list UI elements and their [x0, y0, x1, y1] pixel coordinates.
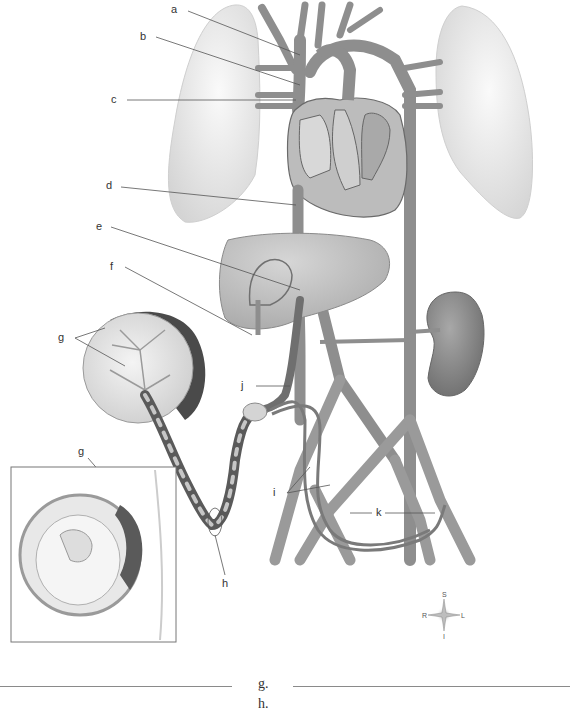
- compass-right: R: [422, 612, 427, 619]
- fetal-circulation-diagram: a b c d e f g g h i j k S R L I g. h.: [0, 0, 570, 715]
- answer-label-g: g.: [258, 676, 269, 692]
- label-d: d: [106, 180, 112, 191]
- label-g-inset: g: [78, 446, 84, 457]
- label-e: e: [96, 221, 102, 232]
- inferior-vena-cava: [298, 190, 395, 460]
- compass-left: L: [461, 612, 465, 619]
- answer-line-left[interactable]: [0, 686, 232, 687]
- anatomy-illustration: [0, 0, 570, 715]
- label-c: c: [111, 94, 117, 105]
- left-lung: [436, 6, 533, 218]
- right-lung: [168, 5, 259, 222]
- placenta: [83, 312, 205, 423]
- compass-superior: S: [442, 591, 447, 598]
- label-f: f: [110, 261, 113, 272]
- label-b: b: [140, 31, 146, 42]
- label-g-placenta: g: [58, 332, 64, 343]
- orientation-compass: [428, 599, 460, 631]
- label-j: j: [241, 380, 243, 391]
- answer-label-h: h.: [258, 696, 269, 712]
- label-a: a: [171, 4, 177, 15]
- label-h: h: [222, 578, 228, 589]
- compass-inferior: I: [443, 633, 445, 640]
- label-k: k: [376, 507, 382, 518]
- answer-line-right[interactable]: [293, 686, 570, 687]
- label-i: i: [273, 487, 275, 498]
